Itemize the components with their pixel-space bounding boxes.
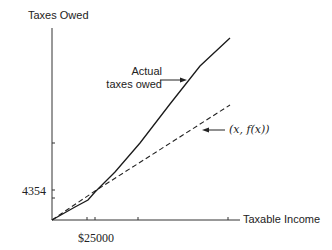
x-tick-label-25000: $25000: [78, 232, 114, 244]
arrowhead-left-icon: [202, 128, 209, 133]
annotation-actual-line2: taxes owed: [102, 79, 162, 90]
annotation-actual-line1: Actual: [102, 66, 162, 77]
y-tick-label-4354: 4354: [22, 185, 46, 197]
annotation-fx: (x, f(x)): [229, 124, 270, 135]
y-axis-title: Taxes Owed: [28, 10, 89, 21]
annotation-actual-taxes: Actual taxes owed: [102, 66, 162, 90]
arrowhead-right-icon: [180, 78, 187, 83]
tangent-line-fx: [52, 105, 230, 220]
x-axis-title: Taxable Income: [243, 214, 320, 225]
